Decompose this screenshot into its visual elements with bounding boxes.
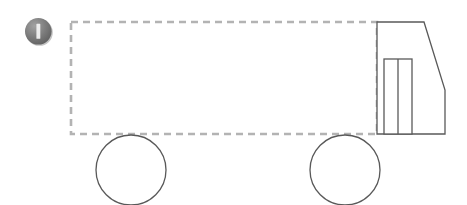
front-wheel-circle[interactable] [310,135,380,205]
truck-diagram [0,0,467,205]
info-circle-icon[interactable] [24,17,53,46]
rear-wheel-circle[interactable] [96,135,166,205]
cargo-box-dashed-rect[interactable] [71,22,377,134]
diagram-canvas [0,0,467,205]
info-circle-icon-bar [36,24,40,39]
